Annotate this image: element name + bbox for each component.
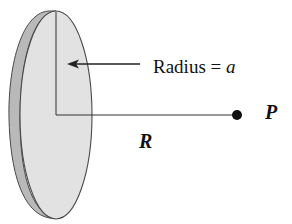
radius-label-prefix: Radius = <box>153 56 226 77</box>
point-p-label: P <box>265 102 277 122</box>
radius-variable: a <box>226 56 236 77</box>
charged-disk-diagram <box>0 0 292 224</box>
distance-r-label: R <box>139 131 152 151</box>
arrow-icon <box>67 60 140 69</box>
point-p-marker <box>232 110 242 120</box>
radius-label: Radius = a <box>153 57 236 76</box>
